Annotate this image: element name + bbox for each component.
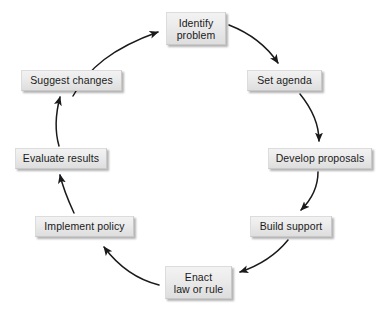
node-implement-policy[interactable]: Implement policy <box>35 216 134 237</box>
arrow-set-agenda-to-develop <box>300 94 319 141</box>
node-develop-proposals[interactable]: Develop proposals <box>268 148 372 169</box>
node-enact-law-or-rule[interactable]: Enact law or rule <box>165 266 232 299</box>
arrow-build-support-to-enact <box>240 240 288 272</box>
arrow-evaluate-to-suggest <box>56 97 60 146</box>
node-identify-problem[interactable]: Identify problem <box>166 12 226 45</box>
arrow-implement-to-evaluate <box>60 175 74 213</box>
node-evaluate-results[interactable]: Evaluate results <box>15 148 107 169</box>
node-set-agenda[interactable]: Set agenda <box>247 70 322 91</box>
policy-cycle-diagram: Identify problem Set agenda Develop prop… <box>0 0 383 321</box>
arrow-enact-to-implement <box>104 247 159 285</box>
arrow-develop-to-build-support <box>301 172 318 210</box>
arrow-identify-to-set-agenda <box>229 25 278 63</box>
node-build-support[interactable]: Build support <box>250 216 332 237</box>
node-suggest-changes[interactable]: Suggest changes <box>21 70 122 91</box>
